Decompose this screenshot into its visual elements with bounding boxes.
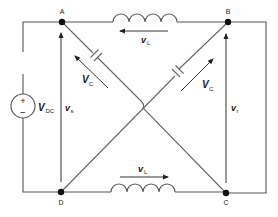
circuit-diagram: + − V DC v L v L xyxy=(0,0,278,217)
capacitor-d-b xyxy=(61,22,228,192)
node-c-dot xyxy=(223,190,229,196)
node-b-dot xyxy=(225,19,231,25)
vc-right-label: V C xyxy=(202,79,214,92)
svg-text:L: L xyxy=(144,169,148,175)
vc-left-label: V C xyxy=(82,74,94,87)
vl-bottom-label: v L xyxy=(138,164,148,175)
source-minus: − xyxy=(20,107,26,118)
svg-text:r: r xyxy=(237,108,239,114)
vs-label: v s xyxy=(65,103,74,114)
dc-source: + − xyxy=(11,94,35,118)
svg-text:L: L xyxy=(147,40,151,46)
vl-top-label: v L xyxy=(141,35,151,46)
node-a-dot xyxy=(59,19,65,25)
top-inductor xyxy=(62,14,228,22)
node-d-label: D xyxy=(58,199,63,206)
bottom-inductor xyxy=(61,184,226,192)
source-plus: + xyxy=(20,96,25,106)
node-c-label: C xyxy=(223,199,228,206)
node-d-dot xyxy=(58,189,64,195)
svg-text:C: C xyxy=(89,81,94,87)
node-a-label: A xyxy=(60,8,65,15)
svg-text:C: C xyxy=(209,86,214,92)
svg-text:DC: DC xyxy=(46,108,55,114)
svg-text:s: s xyxy=(71,108,74,114)
vr-label: v r xyxy=(231,103,239,114)
vdc-label: V DC xyxy=(38,102,55,114)
node-b-label: B xyxy=(226,8,231,15)
